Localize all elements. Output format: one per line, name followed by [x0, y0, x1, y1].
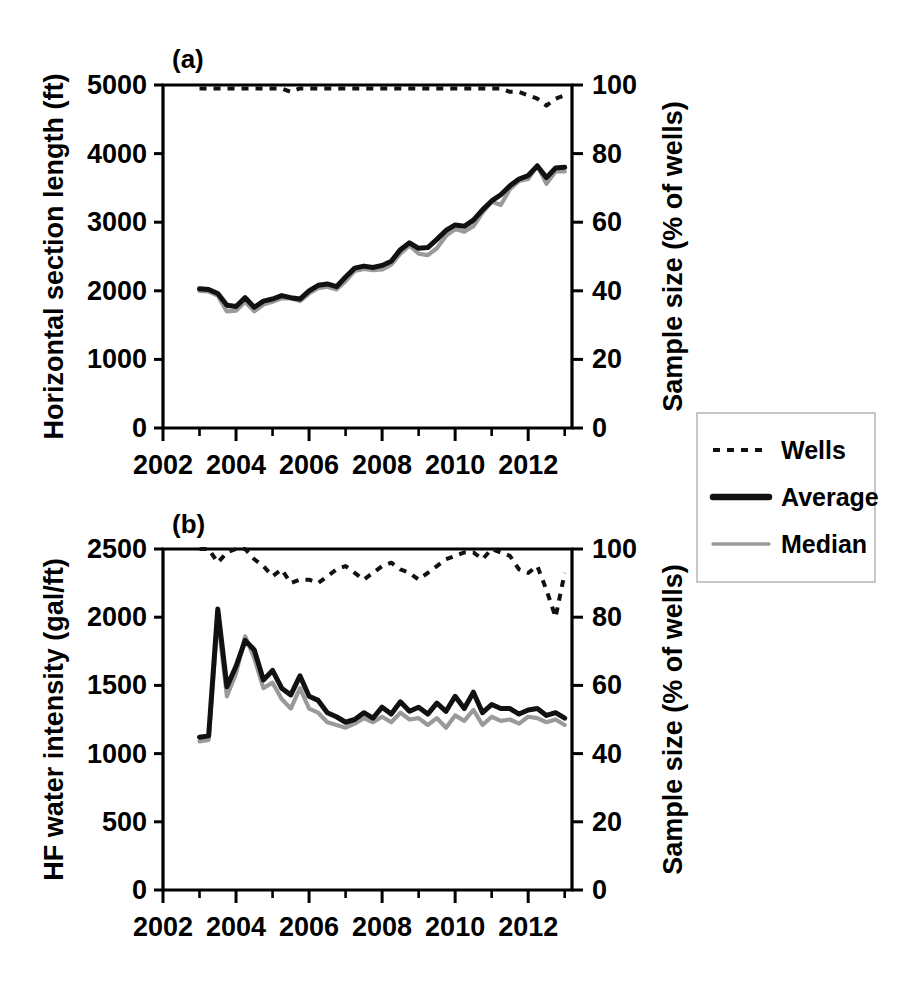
legend: WellsAverageMedian — [697, 413, 879, 582]
panel-a-axis-frame — [163, 85, 572, 428]
panel-a-xtick-label: 2008 — [352, 450, 412, 480]
legend-label-wells: Wells — [781, 436, 846, 464]
panel-b-y2tick-label: 40 — [592, 739, 622, 769]
panel-b-xtick-label: 2008 — [352, 912, 412, 942]
panel-a-y2tick-label: 80 — [592, 139, 622, 169]
panel-b-xtick-label: 2002 — [133, 912, 193, 942]
panel-b-group: 0500100015002000250002040608010020022004… — [39, 509, 688, 942]
panel-a-group: 0100020003000400050000204060801002002200… — [39, 44, 688, 480]
panel-a-xtick-label: 2004 — [206, 450, 266, 480]
panel-b-ytick-label: 1500 — [87, 670, 147, 700]
panel-b-ytick-label: 0 — [132, 875, 147, 905]
panel-b-xtick-label: 2006 — [279, 912, 339, 942]
figure-svg: 0100020003000400050000204060801002002200… — [0, 0, 918, 984]
panel-a-y2tick-label: 60 — [592, 207, 622, 237]
panel-b-series-wells — [200, 549, 565, 617]
panel-a-y2tick-label: 20 — [592, 344, 622, 374]
panel-a-y2tick-label: 40 — [592, 276, 622, 306]
panel-a-ytick-label: 1000 — [87, 344, 147, 374]
legend-label-average: Average — [781, 483, 879, 511]
figure-container: 0100020003000400050000204060801002002200… — [0, 0, 918, 984]
panel-a-panel-label: (a) — [172, 44, 204, 74]
panel-b-ytick-label: 2500 — [87, 534, 147, 564]
panel-a-ytick-label: 4000 — [87, 139, 147, 169]
panel-a-xtick-label: 2010 — [425, 450, 485, 480]
panel-a-ytick-label: 3000 — [87, 207, 147, 237]
panel-a-y2tick-label: 100 — [592, 70, 637, 100]
panel-b-y2tick-label: 80 — [592, 602, 622, 632]
legend-label-median: Median — [781, 530, 867, 558]
panel-b-y2tick-label: 20 — [592, 807, 622, 837]
panel-a-xtick-label: 2006 — [279, 450, 339, 480]
panel-b-series-median — [200, 617, 565, 741]
panel-b-xtick-label: 2004 — [206, 912, 266, 942]
panel-b-ylabel: HF water intensity (gal/ft) — [39, 558, 69, 881]
panel-b-ytick-label: 500 — [102, 807, 147, 837]
panel-a-series-average — [200, 166, 565, 307]
panel-b-panel-label: (b) — [172, 509, 205, 539]
panel-a-y2tick-label: 0 — [592, 413, 607, 443]
panel-b-y2label: Sample size (% of wells) — [658, 564, 688, 875]
panel-b-ytick-label: 2000 — [87, 602, 147, 632]
panel-a-ytick-label: 2000 — [87, 276, 147, 306]
panel-a-xtick-label: 2002 — [133, 450, 193, 480]
panel-b-y2tick-label: 0 — [592, 875, 607, 905]
panel-a-ytick-label: 0 — [132, 413, 147, 443]
panel-a-series-wells — [200, 88, 565, 105]
panel-b-xtick-label: 2012 — [498, 912, 558, 942]
panel-b-y2tick-label: 100 — [592, 534, 637, 564]
panel-b-ytick-label: 1000 — [87, 739, 147, 769]
panel-a-ytick-label: 5000 — [87, 70, 147, 100]
panel-a-ylabel: Horizontal section length (ft) — [39, 74, 69, 440]
panel-a-y2label: Sample size (% of wells) — [658, 101, 688, 412]
panel-a-xtick-label: 2012 — [498, 450, 558, 480]
panel-b-y2tick-label: 60 — [592, 670, 622, 700]
panel-b-xtick-label: 2010 — [425, 912, 485, 942]
